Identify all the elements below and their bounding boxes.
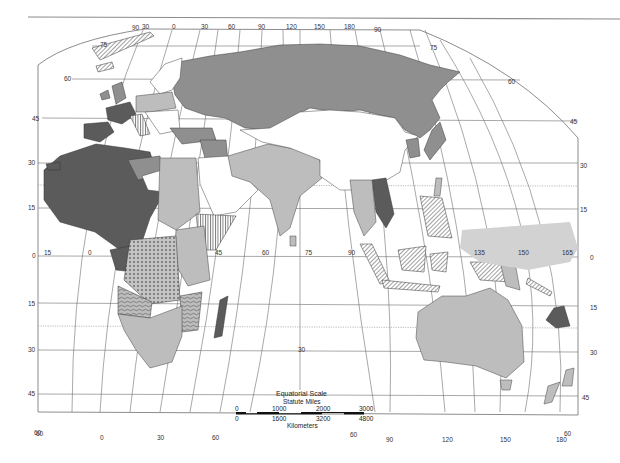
lon-label-equator: 75 <box>305 249 313 256</box>
lon-label-equator: 135 <box>474 249 485 256</box>
lon-label-bottom: 30 <box>157 434 165 441</box>
lat-label-right: 15 <box>580 206 588 213</box>
lat-label-left: 45 <box>28 390 36 397</box>
region-taiwan-marker <box>434 178 442 196</box>
scale-bar: Equatorial Scale Statute Miles 0 1000 20… <box>235 390 374 429</box>
lon-label-bottom: 180 <box>556 436 567 443</box>
lon-label-top: 90 <box>132 24 140 31</box>
region-ireland <box>100 90 110 100</box>
lon-label-bottom: 0 <box>100 434 104 441</box>
lon-label-top: 120 <box>286 23 297 30</box>
region-madagascar <box>214 296 228 338</box>
lat-label-right: 30 <box>590 349 598 356</box>
region-egypt-sudan <box>158 158 200 230</box>
lat-label-left: 30 <box>28 346 36 353</box>
region-new-zealand-south <box>544 382 560 404</box>
lat-label-right: 45 <box>582 394 590 401</box>
lon-label-top: 60 <box>228 23 236 30</box>
lon-label-top: 0 <box>172 23 176 30</box>
region-arctic-island <box>96 62 114 72</box>
region-java <box>382 280 440 292</box>
scale-title: Equatorial Scale <box>276 390 327 398</box>
lon-label-bottom: 60 <box>36 430 44 437</box>
lat-label-left: 15 <box>28 204 36 211</box>
landmasses <box>44 32 578 404</box>
scale-miles-label: Statute Miles <box>283 398 321 405</box>
region-iberia <box>84 122 114 142</box>
scale-km-label: Kilometers <box>287 422 318 429</box>
lat-label-right: 15 <box>590 304 598 311</box>
region-new-caledonia <box>546 306 570 328</box>
scale-miles-tick: 0 <box>235 405 239 412</box>
lat-label-left: 15 <box>28 300 36 307</box>
region-mozambique <box>180 292 202 332</box>
lon-label-equator: 165 <box>562 249 573 256</box>
region-solomons <box>526 278 552 296</box>
lat-label-right: 60 <box>508 78 516 85</box>
region-east-africa <box>174 226 210 286</box>
world-map: 90 30 0 30 60 90 120 150 180 90 75 60 45… <box>0 0 620 463</box>
lat-label-left: 75 <box>100 41 108 48</box>
lon-label-top: 90 <box>374 26 382 33</box>
scale-miles-tick: 3000 <box>359 405 374 412</box>
region-borneo <box>398 246 426 272</box>
lon-label-bottom: 60 <box>350 431 358 438</box>
lon-label-equator: 0 <box>88 249 92 256</box>
scale-miles-tick: 2000 <box>316 405 331 412</box>
lon-label-top: 150 <box>314 23 325 30</box>
lon-label-top: 180 <box>344 23 355 30</box>
lat-label-left: 30 <box>28 159 36 166</box>
scale-bar-segment <box>246 412 257 413</box>
lon-label-top: 90 <box>258 23 266 30</box>
lon-label-bottom: 60 <box>564 430 572 437</box>
region-myanmar-thailand <box>350 180 376 236</box>
region-new-zealand-north <box>562 368 574 386</box>
region-france <box>106 102 136 124</box>
lon-label-bottom: 150 <box>500 436 511 443</box>
lat-label-right: 30 <box>580 162 588 169</box>
lat-label-right: 0 <box>590 254 594 261</box>
region-tasmania <box>500 380 512 390</box>
region-britain <box>112 82 126 104</box>
lon-label-equator: 150 <box>518 249 529 256</box>
scale-miles-tick: 1000 <box>272 405 287 412</box>
lon-label-bottom: 120 <box>442 436 453 443</box>
lat-label-right: 45 <box>570 118 578 125</box>
lon-label-equator: 45 <box>215 249 223 256</box>
region-sulawesi <box>430 252 448 272</box>
lat-label-left: 60 <box>64 75 72 82</box>
lon-label-bottom: 90 <box>386 436 394 443</box>
scale-km-tick: 4800 <box>359 415 374 422</box>
lat-label-right: 75 <box>430 44 438 51</box>
lat-label-left: 0 <box>32 252 36 259</box>
region-central-europe <box>136 92 176 112</box>
region-sri-lanka <box>290 236 296 246</box>
top-rule <box>28 17 620 19</box>
scale-km-tick: 3200 <box>316 415 331 422</box>
region-sumatra <box>360 244 390 284</box>
lon-label-equator: 90 <box>348 249 356 256</box>
scale-km-tick: 0 <box>235 415 239 422</box>
lat-label-left: 45 <box>32 115 40 122</box>
lon-label-equator: 60 <box>262 249 270 256</box>
region-australia <box>416 288 524 378</box>
lon-label-top: 30 <box>142 23 150 30</box>
lat-label-interior: 30 <box>298 346 306 353</box>
lon-label-equator: 15 <box>44 249 52 256</box>
region-philippines <box>420 196 452 238</box>
scale-bar-segment <box>279 412 301 413</box>
scale-km-tick: 1600 <box>272 415 287 422</box>
lon-label-top: 30 <box>201 23 209 30</box>
lon-label-bottom: 60 <box>212 434 220 441</box>
